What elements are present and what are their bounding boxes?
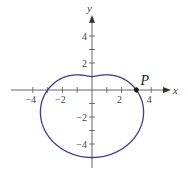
y-axis-arrow-icon [89, 15, 95, 23]
y-tick-label: 2 [82, 58, 87, 69]
y-axis-label: y [86, 2, 92, 14]
y-tick-label: 4 [82, 31, 87, 42]
x-axis-label: x [172, 84, 178, 96]
polar-curve-plot: −4−22442−2−4 P x y [0, 0, 188, 179]
y-tick-label: −2 [76, 112, 87, 123]
y-tick-label: −4 [76, 139, 87, 150]
axes [11, 15, 171, 168]
point-label: P [139, 73, 149, 88]
annotations: P [134, 73, 149, 92]
x-axis-arrow-icon [163, 87, 171, 93]
x-tick-label: 4 [147, 94, 152, 105]
x-tick-label: −2 [55, 94, 66, 105]
point-marker [134, 88, 139, 93]
x-tick-label: 2 [117, 94, 122, 105]
x-tick-label: −4 [25, 94, 36, 105]
